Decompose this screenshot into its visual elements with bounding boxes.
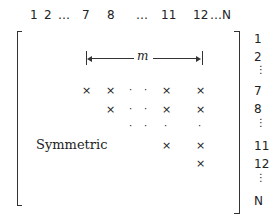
cell-7-7: × — [82, 84, 91, 97]
row-label-1: 1 — [254, 32, 262, 46]
cell-7-12: × — [196, 84, 205, 97]
bandwidth-label: m — [137, 49, 148, 63]
cell-7-8: × — [106, 84, 115, 97]
col-label-11: 11 — [161, 8, 176, 22]
cell-dots-c: · — [164, 120, 167, 131]
cell-7-dot-a: · — [129, 84, 132, 95]
cell-8-12: × — [196, 103, 205, 116]
cell-7-11: × — [162, 84, 171, 97]
cell-12-12: × — [196, 157, 205, 170]
col-label-ellipsis-1: … — [58, 8, 70, 22]
col-label-1: 1 — [30, 8, 38, 22]
row-vdots-3: ⋮ — [256, 176, 266, 180]
col-label-ellipsis-2: … — [136, 8, 148, 22]
col-label-2: 2 — [44, 8, 52, 22]
cell-7-dot-b: · — [144, 84, 147, 95]
bandwidth-line-right — [153, 58, 198, 59]
row-label-8: 8 — [254, 102, 262, 116]
col-label-7: 7 — [82, 8, 90, 22]
col-label-12: 12 — [193, 8, 208, 22]
matrix-right-bracket — [234, 31, 240, 214]
symmetric-label: Symmetric — [36, 137, 107, 152]
cell-8-dot-b: · — [144, 103, 147, 114]
row-label-7: 7 — [254, 84, 262, 98]
cell-dots-a: · — [129, 120, 132, 131]
cell-11-12: × — [196, 139, 205, 152]
row-vdots-1: ⋮ — [256, 68, 266, 72]
cell-8-8: × — [106, 103, 115, 116]
col-label-ellipsis-n: …N — [210, 8, 231, 22]
bandwidth-right-tick — [202, 51, 203, 65]
cell-dots-d: · — [198, 120, 201, 131]
row-label-n: N — [254, 194, 263, 208]
matrix-left-bracket — [17, 31, 22, 206]
cell-11-11: × — [162, 139, 171, 152]
row-label-12: 12 — [254, 157, 269, 171]
cell-8-dot-a: · — [129, 103, 132, 114]
bandwidth-line-left — [90, 58, 134, 59]
cell-dots-b: · — [144, 120, 147, 131]
row-vdots-2: ⋮ — [256, 121, 266, 125]
col-label-8: 8 — [107, 8, 115, 22]
row-label-2: 2 — [254, 50, 262, 64]
row-label-11: 11 — [254, 139, 269, 153]
cell-8-11: × — [162, 103, 171, 116]
